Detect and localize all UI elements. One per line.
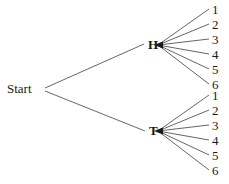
tree-edges bbox=[45, 9, 209, 170]
tree-diagram-canvas bbox=[0, 0, 229, 184]
tree-leaf-tails-3: 3 bbox=[212, 119, 219, 132]
edge-heads-to-4 bbox=[158, 45, 209, 54]
edge-start-to-tails bbox=[45, 91, 145, 131]
edge-tails-to-5 bbox=[158, 131, 209, 155]
tree-leaf-heads-4: 4 bbox=[212, 48, 219, 61]
tree-leaf-tails-6: 6 bbox=[212, 164, 219, 177]
tree-node-tails: T bbox=[149, 124, 158, 137]
edge-tails-to-6 bbox=[158, 131, 209, 170]
tree-node-start: Start bbox=[7, 82, 32, 95]
tree-leaf-heads-1: 1 bbox=[212, 3, 219, 16]
tree-leaf-tails-5: 5 bbox=[212, 149, 219, 162]
tree-leaf-tails-4: 4 bbox=[212, 134, 219, 147]
tree-diagram-figure: Start H T 123456123456 bbox=[0, 0, 229, 184]
edge-start-to-heads bbox=[45, 44, 144, 88]
edge-heads-to-6 bbox=[158, 45, 209, 84]
edge-tails-to-4 bbox=[158, 131, 209, 140]
tree-leaf-tails-1: 1 bbox=[212, 89, 219, 102]
tree-leaf-heads-3: 3 bbox=[212, 33, 219, 46]
tree-node-heads: H bbox=[148, 38, 158, 51]
tree-leaf-tails-2: 2 bbox=[212, 104, 219, 117]
tree-leaf-heads-5: 5 bbox=[212, 63, 219, 76]
edge-heads-to-5 bbox=[158, 45, 209, 69]
tree-leaf-heads-2: 2 bbox=[212, 18, 219, 31]
